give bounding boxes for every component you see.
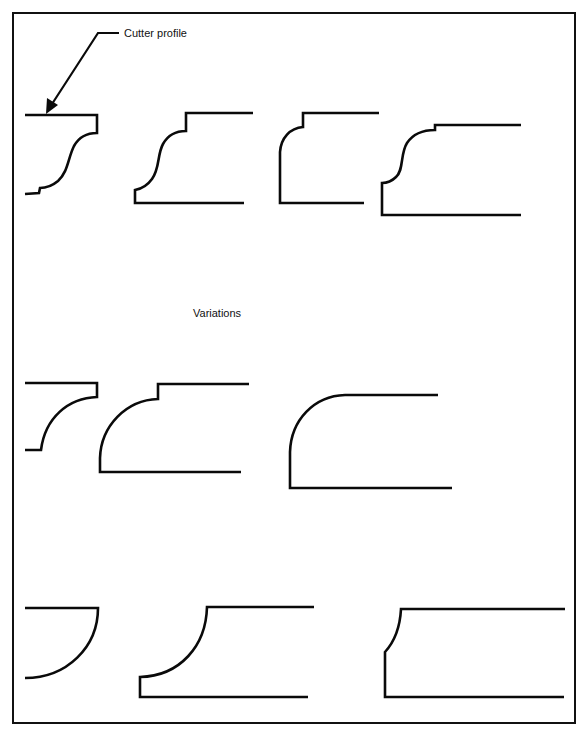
section-heading: Variations xyxy=(193,307,242,319)
profile-ogee-step xyxy=(135,113,253,203)
cutter-profile-callout: Cutter profile xyxy=(46,27,187,114)
profile-quarter-round-step xyxy=(100,384,249,472)
profile-cove-fillet xyxy=(25,383,97,450)
profile-row-2 xyxy=(25,383,452,488)
arrow-icon xyxy=(46,98,58,114)
profile-row-1 xyxy=(25,113,521,215)
profile-half-cove xyxy=(25,608,98,678)
leader-line xyxy=(52,33,119,104)
profile-large-quarter-round xyxy=(290,395,452,488)
profile-ovolo-step xyxy=(280,113,379,203)
profile-small-chamfer-cove xyxy=(385,609,565,697)
profile-row-3 xyxy=(25,607,565,697)
profile-ogee-fillet xyxy=(25,115,97,194)
profile-wide-ogee xyxy=(382,125,521,215)
profile-cove-fillet-2 xyxy=(140,607,314,697)
callout-label: Cutter profile xyxy=(124,27,187,39)
cutter-profile-diagram: Cutter profile Variations xyxy=(0,0,583,729)
